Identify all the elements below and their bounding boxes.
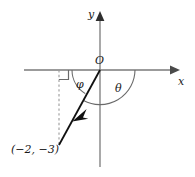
x-axis-arrowhead-icon: [170, 66, 180, 75]
y-axis-arrowhead-icon: [96, 11, 105, 21]
point-coordinate-label: (−2, −3): [11, 144, 59, 155]
origin-label: O: [95, 55, 104, 66]
right-angle-square-icon: [59, 70, 69, 80]
coordinate-diagram: y x O φ θ (−2, −3): [0, 0, 195, 177]
y-axis-label: y: [88, 9, 94, 20]
x-axis-label: x: [178, 76, 184, 87]
angle-label-phi: φ: [76, 79, 84, 90]
angle-label-theta: θ: [115, 83, 122, 94]
